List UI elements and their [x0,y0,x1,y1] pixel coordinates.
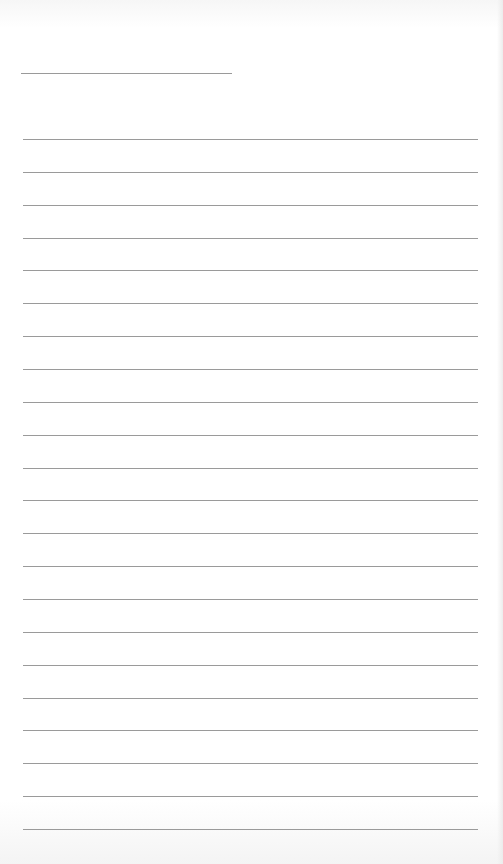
ruled-line [23,500,478,501]
ruled-line [23,402,478,403]
ruled-line [23,369,478,370]
ruled-line [23,698,478,699]
ruled-line [23,730,478,731]
ruled-line [23,665,478,666]
ruled-line [23,763,478,764]
ruled-line [23,303,478,304]
lined-paper-page [0,0,503,864]
ruled-line [23,336,478,337]
ruled-line [23,468,478,469]
ruled-line [23,172,478,173]
ruled-line [23,599,478,600]
header-name-line [21,73,232,74]
ruled-line [23,533,478,534]
ruled-line [23,566,478,567]
ruled-line [23,435,478,436]
ruled-line [23,270,478,271]
ruled-line [23,238,478,239]
ruled-line [23,632,478,633]
ruled-line [23,205,478,206]
ruled-line [23,829,478,830]
ruled-line [23,796,478,797]
ruled-line [23,139,478,140]
